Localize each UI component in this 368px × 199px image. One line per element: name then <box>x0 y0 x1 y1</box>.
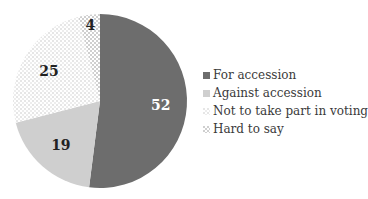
legend-swatch-icon <box>203 108 210 115</box>
legend-swatch-icon <box>203 126 210 133</box>
chart-legend: For accession Against accession Not to t… <box>203 66 368 138</box>
legend-label: Against accession <box>213 86 322 100</box>
data-label: 19 <box>51 137 70 153</box>
legend-swatch-icon <box>203 90 210 97</box>
legend-label: For accession <box>213 68 296 82</box>
legend-item-not-voting: Not to take part in voting <box>203 102 368 120</box>
legend-item-hard-to-say: Hard to say <box>203 120 368 138</box>
pie-chart: 5219254 <box>0 0 200 199</box>
data-label: 25 <box>39 63 58 79</box>
legend-label: Not to take part in voting <box>213 104 368 118</box>
legend-swatch-icon <box>203 72 210 79</box>
legend-label: Hard to say <box>213 122 284 136</box>
data-label: 52 <box>151 97 170 113</box>
legend-item-for-accession: For accession <box>203 66 368 84</box>
data-label: 4 <box>86 17 96 33</box>
pie-slice-for-accession <box>89 14 187 188</box>
legend-item-against-accession: Against accession <box>203 84 368 102</box>
